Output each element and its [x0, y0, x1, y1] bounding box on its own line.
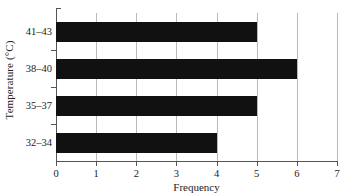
gridline [337, 13, 338, 161]
y-axis-tick-label: 32–34 [14, 137, 52, 149]
x-axis-tick-label: 5 [245, 167, 269, 180]
bar [56, 133, 217, 153]
x-axis-tick [337, 161, 338, 166]
x-axis-tick-label: 2 [124, 167, 148, 180]
gridline [257, 13, 258, 161]
y-axis-tick-label: 38–40 [14, 63, 52, 75]
x-axis-tick-label: 1 [84, 167, 108, 180]
y-axis-tick-labels: 41–4338–4035–3732–34 [14, 13, 52, 161]
x-axis-tick [56, 161, 57, 166]
x-axis-tick [257, 161, 258, 166]
x-axis-tick-label: 0 [44, 167, 68, 180]
x-axis-tick-label: 7 [325, 167, 343, 180]
y-axis-tick [51, 87, 56, 88]
x-axis-tick [297, 161, 298, 166]
bar [56, 22, 257, 42]
y-axis-tick [51, 50, 56, 51]
bar [56, 59, 297, 79]
x-axis-tick-label: 4 [205, 167, 229, 180]
bar-chart: Temperature (°C) 41–4338–4035–3732–34 Fr… [0, 0, 343, 196]
x-axis-line [56, 161, 337, 162]
x-axis-tick [176, 161, 177, 166]
x-axis-tick-label: 6 [285, 167, 309, 180]
plot-area [56, 13, 337, 161]
bar [56, 96, 257, 116]
x-axis-tick-label: 3 [164, 167, 188, 180]
gridline [297, 13, 298, 161]
x-axis-tick [217, 161, 218, 166]
y-axis-tick [51, 124, 56, 125]
y-axis-tick-label: 35–37 [14, 100, 52, 112]
x-axis-title: Frequency [56, 181, 337, 194]
y-axis-tick-label: 41–43 [14, 26, 52, 38]
x-axis-tick [136, 161, 137, 166]
y-axis-top-tick [56, 8, 61, 9]
x-axis-tick [96, 161, 97, 166]
